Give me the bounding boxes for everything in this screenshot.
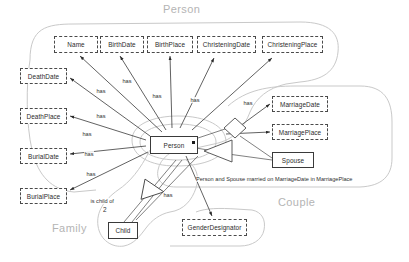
node-deathdate[interactable]: DeathDate (20, 68, 67, 84)
edge-label-is-child-of: is child of (90, 198, 114, 204)
region-label-family: Family (52, 222, 87, 234)
marriage-fact-sentence: Person and Spouse married on MarriageDat… (196, 176, 352, 182)
node-name[interactable]: Name (54, 36, 98, 53)
node-burialplace[interactable]: BurialPlace (20, 188, 67, 204)
edge-label-has-birthplace: has (152, 93, 162, 99)
edge-label-has-burialplace: has (86, 171, 96, 177)
edge-person-burialplace (70, 152, 148, 190)
cardinality-child: 2 (103, 206, 107, 213)
node-genderdesignator[interactable]: GenderDesignator (182, 219, 247, 236)
region-label-couple: Couple (278, 196, 315, 208)
marriage-diamond (224, 118, 246, 138)
node-marriagedate[interactable]: MarriageDate (272, 96, 328, 112)
node-person[interactable]: Person (150, 136, 198, 154)
diagram-canvas: Person Family Couple Name BirthDate Birt… (0, 0, 409, 262)
region-label-person: Person (163, 3, 200, 15)
edge-label-has-christeningdate: has (190, 97, 200, 103)
edge-label-has-birthdate: has (122, 78, 132, 84)
node-child[interactable]: Child (108, 222, 138, 239)
node-marriageplace[interactable]: MarriagePlace (272, 124, 328, 140)
edge-label-has-christeningplace: has (243, 100, 253, 106)
node-burialdate[interactable]: BurialDate (20, 148, 67, 164)
edge-label-has-deathdate: has (96, 113, 106, 119)
edge-label-has-burialdate: has (84, 151, 94, 157)
node-birthdate[interactable]: BirthDate (100, 36, 144, 53)
node-christeningdate[interactable]: ChristeningDate (197, 36, 256, 53)
edge-person-deathdate (70, 78, 150, 136)
edge-diamond-spouse (240, 136, 272, 158)
edge-person-birthplace (170, 56, 172, 128)
node-deathplace[interactable]: DeathPlace (20, 108, 67, 124)
edge-person-gender (186, 156, 212, 216)
edge-triangle-spouse (228, 154, 272, 160)
edge-person-christeningplace (192, 58, 272, 130)
person-role-marker (192, 141, 195, 144)
node-birthplace[interactable]: BirthPlace (147, 36, 193, 53)
node-spouse[interactable]: Spouse (272, 152, 314, 168)
edge-label-has-gender: has (163, 192, 173, 198)
edge-label-has-name: has (96, 88, 106, 94)
edge-person-marriagedate (240, 104, 270, 126)
edge-label-has-deathplace: has (82, 131, 92, 137)
node-christeningplace[interactable]: ChristeningPlace (262, 36, 323, 53)
